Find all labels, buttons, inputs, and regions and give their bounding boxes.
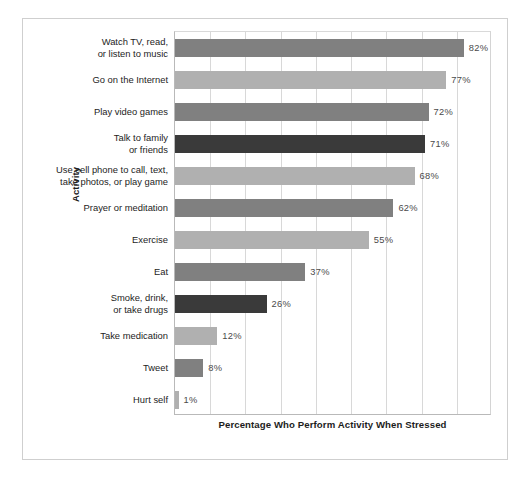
bar: 26%: [175, 295, 267, 313]
bar-rows: Watch TV, read, or listen to music82%Go …: [175, 32, 490, 414]
bar-row: Hurt self1%: [175, 384, 490, 416]
bar-row: Tweet8%: [175, 352, 490, 384]
bar-row: Prayer or meditation62%: [175, 192, 490, 224]
bar: 82%: [175, 39, 464, 57]
bar: 37%: [175, 263, 305, 281]
category-label: Use cell phone to call, text, take photo…: [18, 164, 168, 187]
bar-value-label: 1%: [184, 395, 198, 405]
category-label: Play video games: [18, 106, 168, 118]
bar-value-label: 12%: [222, 331, 242, 341]
category-label: Tweet: [18, 362, 168, 374]
plot-area: Watch TV, read, or listen to music82%Go …: [174, 31, 491, 415]
bar-row: Use cell phone to call, text, take photo…: [175, 160, 490, 192]
bar-row: Talk to family or friends71%: [175, 128, 490, 160]
bar: 12%: [175, 327, 217, 345]
bar-value-label: 37%: [310, 267, 330, 277]
bar: 77%: [175, 71, 446, 89]
bar-value-label: 77%: [451, 75, 471, 85]
bar-row: Go on the Internet77%: [175, 64, 490, 96]
category-label: Eat: [18, 266, 168, 278]
bar-value-label: 55%: [374, 235, 394, 245]
bar: 55%: [175, 231, 369, 249]
bar-value-label: 71%: [430, 139, 450, 149]
bar-row: Take medication12%: [175, 320, 490, 352]
category-label: Hurt self: [18, 394, 168, 406]
bar-value-label: 68%: [420, 171, 440, 181]
bar: 62%: [175, 199, 393, 217]
bar: 72%: [175, 103, 429, 121]
chart-figure: Activity Watch TV, read, or listen to mu…: [22, 18, 508, 460]
category-label: Take medication: [18, 330, 168, 342]
bar-row: Play video games72%: [175, 96, 490, 128]
bar: 71%: [175, 135, 425, 153]
category-label: Go on the Internet: [18, 74, 168, 86]
category-label: Smoke, drink, or take drugs: [18, 292, 168, 315]
bar-value-label: 26%: [272, 299, 292, 309]
bar-value-label: 72%: [434, 107, 454, 117]
bar-value-label: 62%: [398, 203, 418, 213]
bar-value-label: 8%: [208, 363, 222, 373]
bar-row: Watch TV, read, or listen to music82%: [175, 32, 490, 64]
category-label: Watch TV, read, or listen to music: [18, 36, 168, 59]
bar: 1%: [175, 391, 179, 409]
category-label: Exercise: [18, 234, 168, 246]
bar: 68%: [175, 167, 415, 185]
bar-row: Eat37%: [175, 256, 490, 288]
bar: 8%: [175, 359, 203, 377]
x-axis-title: Percentage Who Perform Activity When Str…: [174, 419, 491, 430]
bar-row: Smoke, drink, or take drugs26%: [175, 288, 490, 320]
category-label: Prayer or meditation: [18, 202, 168, 214]
bar-value-label: 82%: [469, 43, 489, 53]
category-label: Talk to family or friends: [18, 132, 168, 155]
bar-row: Exercise55%: [175, 224, 490, 256]
